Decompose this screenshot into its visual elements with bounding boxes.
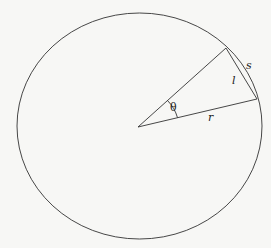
radius-r-label: r [208,111,214,124]
diagram-canvas: θ r l s [0,0,271,248]
arc-s-label: s [246,59,252,72]
radius-line-r [138,99,257,127]
angle-theta-label: θ [170,101,177,114]
chord-line [226,48,257,99]
chord-l-label: l [232,74,236,87]
